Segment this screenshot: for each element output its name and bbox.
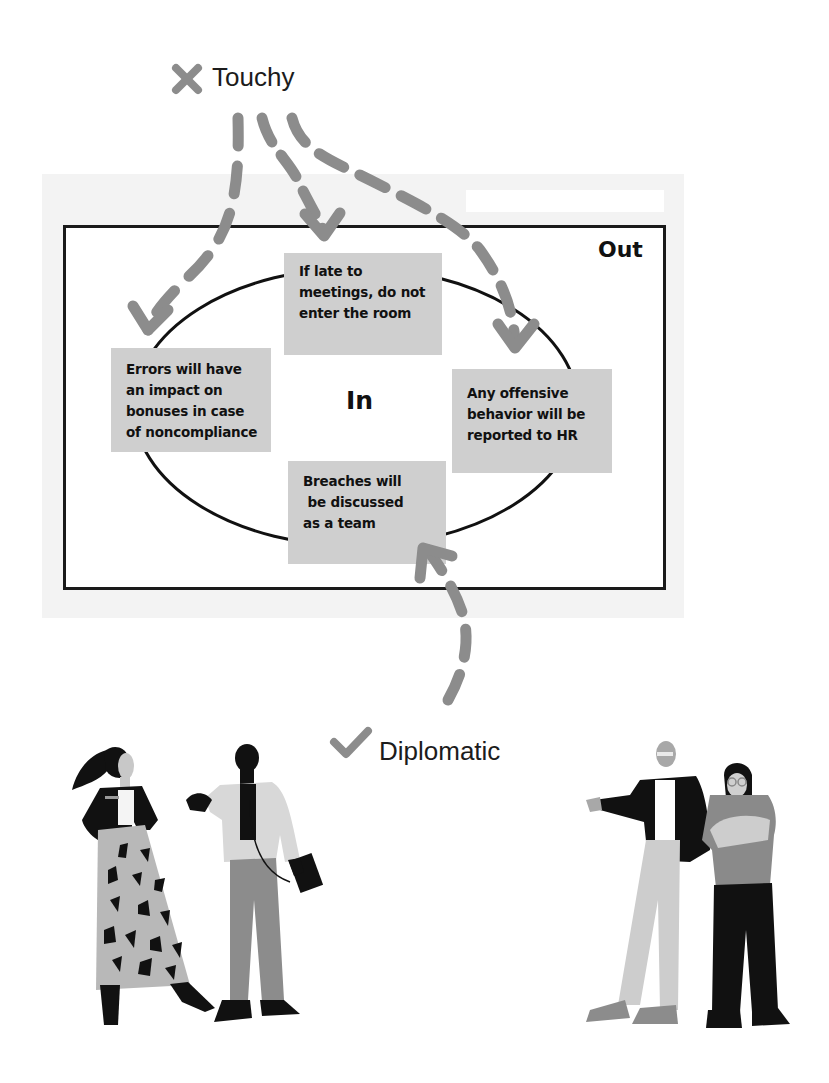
people-illustrations: [0, 0, 829, 1083]
woman-ponytail-illustration: [72, 747, 215, 1025]
woman-glasses-illustration: [702, 763, 790, 1028]
man-phone-illustration: [186, 744, 323, 1022]
bald-man-pointing-illustration: [586, 741, 710, 1024]
